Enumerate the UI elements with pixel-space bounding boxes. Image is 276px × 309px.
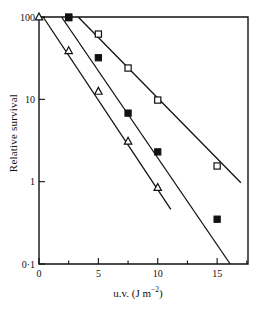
data-point-resistant [95,31,101,37]
y-tick-label: 1 [30,176,35,187]
data-point-intermediate [155,149,161,155]
data-point-intermediate [95,55,101,61]
x-axis-label-exponent: −2 [151,285,159,294]
fit-line-intermediate [62,17,231,264]
x-axis-label: u.v. (J m−2) [0,283,276,301]
data-point-resistant [214,163,220,169]
x-axis-label-suffix: ) [159,287,163,299]
x-tick-label: 15 [212,268,222,279]
data-point-resistant [155,97,161,103]
series-data-markers [35,13,220,222]
y-axis-ticks [39,17,45,264]
y-tick-label: 10 [25,94,35,105]
y-axis-tick-labels: 1001010·1 [20,12,35,270]
data-point-intermediate [66,15,72,21]
data-point-resistant [125,65,131,71]
relative-survival-plot: 051015 1001010·1 [0,0,276,309]
x-axis-label-prefix: u.v. (J m [113,287,151,299]
x-tick-label: 10 [153,268,163,279]
y-tick-label: 100 [20,12,35,23]
data-point-intermediate [214,216,220,222]
x-axis-ticks [39,258,247,264]
x-tick-label: 0 [37,268,42,279]
figure-container: 051015 1001010·1 Relative survival u.v. … [0,0,276,309]
x-axis-label-text: u.v. (J m−2) [113,287,162,299]
y-tick-label: 0·1 [22,259,35,270]
x-axis-tick-labels: 051015 [37,268,223,279]
data-point-sensitive [95,87,102,94]
data-point-intermediate [125,110,131,116]
data-point-sensitive [65,47,72,54]
x-tick-label: 5 [96,268,101,279]
